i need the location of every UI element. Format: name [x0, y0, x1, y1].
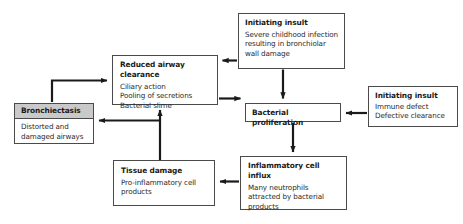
node-title: Initiating insult: [245, 18, 339, 28]
node-body-line: Distorted and: [21, 122, 89, 132]
node-title: Inflammatory cell influx: [248, 161, 341, 181]
node-body-line: Bacterial slime: [120, 101, 212, 110]
node-body: Many neutrophils attracted by bacterial …: [248, 183, 341, 211]
node-body-line: wall damage: [245, 49, 339, 58]
node-body-line: resulting in bronchiolar: [245, 39, 339, 48]
node-initiating-insult-top: Initiating insult Severe childhood infec…: [238, 13, 345, 69]
node-tissue-damage: Tissue damage Pro-inflammatory cell prod…: [113, 160, 215, 206]
node-body-line: products: [121, 187, 209, 196]
node-body: Pro-inflammatory cell products: [121, 178, 209, 197]
node-body: Severe childhood infection resulting in …: [245, 30, 339, 58]
node-body-line: Defective clearance: [375, 111, 452, 120]
node-title: Tissue damage: [121, 166, 209, 176]
node-bacterial-proliferation: Bacterial proliferation: [245, 103, 341, 122]
node-body-line: damaged airways: [21, 132, 89, 142]
node-title: Bronchiectasis: [15, 104, 93, 119]
node-body-line: attracted by bacterial: [248, 192, 341, 201]
node-body: Immune defect Defective clearance: [375, 102, 452, 121]
diagram-canvas: Initiating insult Severe childhood infec…: [0, 0, 463, 224]
node-body-line: Severe childhood infection: [245, 30, 339, 39]
node-body-line: Ciliary action: [120, 82, 212, 91]
node-body: Distorted and damaged airways: [15, 119, 93, 143]
edge-bronchiectasis-to-reduced-airway-clearance: [52, 81, 107, 103]
node-inflammatory-cell-influx: Inflammatory cell influx Many neutrophil…: [240, 156, 347, 210]
node-title: Bacterial proliferation: [252, 108, 335, 128]
node-reduced-airway-clearance: Reduced airway clearance Ciliary action …: [112, 55, 218, 105]
node-body-line: Many neutrophils: [248, 183, 341, 192]
node-body-line: products: [248, 202, 341, 211]
node-bronchiectasis: Bronchiectasis Distorted and damaged air…: [14, 103, 94, 144]
node-initiating-insult-right: Initiating insult Immune defect Defectiv…: [368, 86, 458, 127]
node-body: Ciliary action Pooling of secretions Bac…: [120, 82, 212, 110]
node-body-line: Pooling of secretions: [120, 91, 212, 100]
node-body-line: Pro-inflammatory cell: [121, 178, 209, 187]
node-title: Initiating insult: [375, 91, 452, 101]
node-title: Reduced airway clearance: [120, 60, 212, 80]
node-body-line: Immune defect: [375, 102, 452, 111]
